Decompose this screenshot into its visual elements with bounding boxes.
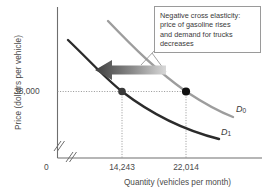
annotation-line-1: Negative cross elasticity:	[160, 11, 256, 20]
x-axis-tick-14243: 14,243	[109, 162, 135, 172]
curve-label-d0-subscript: 0	[243, 107, 247, 114]
curve-label-d1: D1	[221, 127, 231, 137]
y-axis-label: Price (dollars per vehicle)	[14, 13, 23, 153]
equilibrium-point-d0	[182, 87, 190, 95]
x-axis-break-icon	[66, 152, 77, 162]
curve-label-d1-subscript: 1	[228, 130, 232, 137]
equilibrium-point-d1	[118, 88, 126, 96]
annotation-line-2: price of gasoline rises	[160, 20, 256, 29]
annotation-callout: Negative cross elasticity: price of gaso…	[154, 6, 261, 53]
y-axis-tick-38000: 38,000	[14, 86, 40, 96]
annotation-line-4: decreases	[160, 39, 256, 48]
annotation-line-3: and demand for trucks	[160, 30, 256, 39]
y-axis-break-icon	[54, 141, 65, 151]
curve-label-d0: D0	[236, 104, 246, 114]
origin-label: 0	[44, 162, 49, 172]
x-axis-tick-22014: 22,014	[173, 162, 199, 172]
x-axis-label: Quantity (vehicles per month)	[124, 178, 231, 187]
